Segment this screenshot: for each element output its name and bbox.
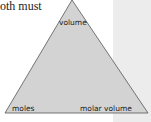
triangle-label-volume: volume bbox=[59, 18, 87, 27]
triangle-label-molar-volume: molar volume bbox=[80, 104, 132, 113]
triangle-label-moles: moles bbox=[12, 104, 35, 113]
formula-triangle-shape bbox=[5, 0, 148, 113]
